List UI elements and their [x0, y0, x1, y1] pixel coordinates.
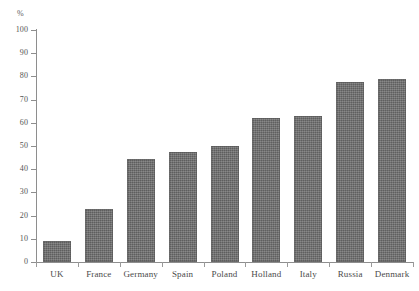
- bar-chart: % 0102030405060708090100 UKFranceGermany…: [0, 0, 419, 291]
- y-axis-tick-label-text: 10: [2, 235, 28, 243]
- bar: [252, 118, 280, 262]
- bar: [211, 146, 239, 262]
- y-axis-tick-label: 60: [0, 119, 28, 127]
- y-axis-tick-label: 100: [0, 26, 28, 34]
- x-axis-tick: [162, 262, 163, 267]
- bar: [127, 159, 155, 262]
- y-axis-tick-label-text: 60: [2, 119, 28, 127]
- x-axis-tick: [120, 262, 121, 267]
- x-axis-tick: [413, 262, 414, 267]
- y-axis-tick-label-text: 50: [2, 142, 28, 150]
- bar: [378, 79, 406, 262]
- y-axis-tick-label: 10: [0, 235, 28, 243]
- y-axis-tick-label: 40: [0, 165, 28, 173]
- y-axis-tick-label-text: 20: [2, 212, 28, 220]
- y-axis-tick-label-text: 40: [2, 165, 28, 173]
- plot-area: [36, 30, 413, 262]
- y-axis-tick-label-text: 80: [2, 72, 28, 80]
- bar: [169, 152, 197, 262]
- x-axis-tick: [287, 262, 288, 267]
- y-axis-tick-label-text: 70: [2, 96, 28, 104]
- y-axis-tick-label-text: 0: [2, 258, 28, 266]
- y-axis-tick-label-text: 90: [2, 49, 28, 57]
- x-axis-tick: [329, 262, 330, 267]
- y-axis-tick-label: 50: [0, 142, 28, 150]
- y-axis-tick-label-text: 100: [2, 26, 28, 34]
- x-axis-tick: [36, 262, 37, 267]
- x-axis-tick: [371, 262, 372, 267]
- y-axis-tick-label: 20: [0, 212, 28, 220]
- x-axis-tick: [204, 262, 205, 267]
- bar: [336, 82, 364, 262]
- x-axis-tick: [78, 262, 79, 267]
- x-axis-tick: [245, 262, 246, 267]
- bar: [43, 241, 71, 262]
- y-axis-tick-label: 70: [0, 96, 28, 104]
- x-axis-line: [36, 262, 413, 263]
- bar: [85, 209, 113, 262]
- y-axis-unit-label: %: [17, 9, 24, 18]
- y-axis-tick-label: 90: [0, 49, 28, 57]
- bar: [294, 116, 322, 262]
- y-axis-tick-label-text: 30: [2, 188, 28, 196]
- y-axis-tick-label: 80: [0, 72, 28, 80]
- x-axis-category-label: Denmark: [360, 269, 419, 280]
- y-axis-tick-label: 0: [0, 258, 28, 266]
- y-axis-tick-label: 30: [0, 188, 28, 196]
